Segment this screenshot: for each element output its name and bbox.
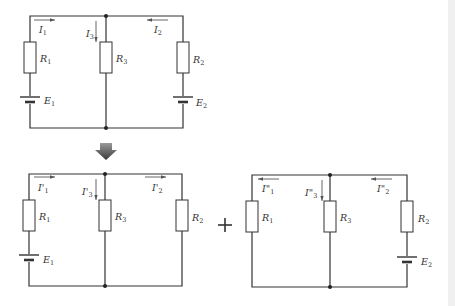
label-r2: R2 xyxy=(417,213,429,226)
label-e2: E2 xyxy=(195,97,207,110)
label-r1: R1 xyxy=(39,53,51,66)
label-i3-double-prime: I"3 xyxy=(304,187,317,200)
e1-only-circuit: I'1 I'3 I'2 R1 R3 R2 E1 xyxy=(19,172,203,288)
junction-node-top xyxy=(104,14,108,18)
resistor-r1 xyxy=(246,201,258,232)
junction-node-top xyxy=(328,173,332,177)
e2-only-circuit: I"1 I"3 I"2 R1 R3 R2 E2 xyxy=(246,173,432,289)
resistor-r1 xyxy=(24,42,36,73)
resistor-r3 xyxy=(324,201,336,232)
original-circuit: I1 I3 I2 R1 R3 R2 E1 E2 xyxy=(20,14,207,130)
label-r3: R3 xyxy=(115,53,127,66)
label-r2: R2 xyxy=(191,212,203,225)
label-r3: R3 xyxy=(114,211,126,224)
label-i2: I2 xyxy=(153,24,162,37)
label-e2: E2 xyxy=(420,256,432,269)
resistor-r2 xyxy=(176,200,188,231)
page-edge xyxy=(448,0,455,306)
superposition-diagram: I1 I3 I2 R1 R3 R2 E1 E2 I'1 I'3 I'2 R1 R… xyxy=(0,0,455,306)
resistor-r2 xyxy=(401,201,413,232)
label-i2-prime: I'2 xyxy=(151,182,163,195)
junction-node-top xyxy=(103,172,107,176)
junction-node-bottom xyxy=(103,284,107,288)
label-i1-double-prime: I"1 xyxy=(261,183,274,196)
resistor-r3 xyxy=(99,200,111,231)
label-r1: R1 xyxy=(38,211,50,224)
label-r1: R1 xyxy=(261,212,273,225)
resistor-r2 xyxy=(177,42,189,73)
label-i1-prime: I'1 xyxy=(37,182,49,195)
label-r2: R2 xyxy=(192,54,204,67)
label-e1: E1 xyxy=(43,95,55,108)
label-e1: E1 xyxy=(42,254,54,267)
label-i3: I3 xyxy=(85,28,94,41)
junction-node-bottom xyxy=(328,285,332,289)
plus-operator-icon xyxy=(218,218,232,232)
label-i3-prime: I'3 xyxy=(81,186,93,199)
label-i1: I1 xyxy=(38,24,47,37)
resistor-r3 xyxy=(100,42,112,73)
label-i2-double-prime: I"2 xyxy=(376,183,389,196)
resistor-r1 xyxy=(23,200,35,231)
label-r3: R3 xyxy=(339,212,351,225)
junction-node-bottom xyxy=(104,126,108,130)
down-arrow-icon xyxy=(95,143,117,160)
